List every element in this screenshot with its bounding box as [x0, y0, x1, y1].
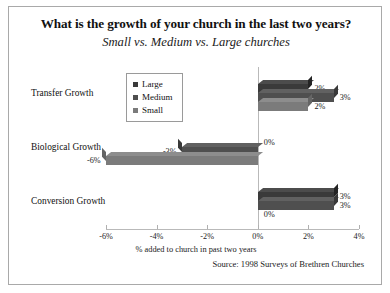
bar-side-facet [308, 93, 312, 106]
x-axis-line [106, 229, 359, 230]
legend-item-label: Medium [142, 93, 173, 102]
legend-item-label: Large [142, 80, 163, 89]
square-marker-icon [133, 108, 138, 113]
chart-legend[interactable]: LargeMediumSmall [126, 73, 183, 122]
x-axis-tick-label: -6% [86, 232, 126, 241]
x-axis-tick [106, 225, 107, 229]
bar-top-facet [258, 197, 339, 201]
bar-value-label: 3% [340, 93, 351, 102]
x-axis-tick-label: 4% [339, 232, 379, 241]
bar-value-label: 0% [264, 138, 275, 147]
bar-side-facet [308, 75, 312, 88]
x-axis-tick [157, 225, 158, 229]
legend-item-small[interactable]: Small [133, 104, 173, 117]
category-label: Biological Growth [31, 142, 101, 152]
legend-item-large[interactable]: Large [133, 78, 173, 91]
x-axis-tick-label: 0% [238, 232, 278, 241]
bar-top-facet [258, 89, 339, 93]
x-axis-tick [258, 225, 259, 229]
bar-top-facet [258, 80, 314, 84]
bar-small-0[interactable] [258, 102, 309, 111]
bar-value-label: 3% [340, 192, 351, 201]
x-axis-tick [308, 225, 309, 229]
x-axis-tick [207, 225, 208, 229]
bar-top-facet [258, 98, 314, 102]
bar-top-facet [258, 188, 339, 192]
x-axis-tick-label: 2% [288, 232, 328, 241]
category-label: Transfer Growth [31, 88, 93, 98]
bar-face [258, 102, 309, 111]
chart-figure: What is the growth of your church in the… [0, 0, 390, 293]
bar-face [258, 201, 334, 210]
source-note: Source: 1998 Surveys of Brethren Churche… [212, 259, 364, 269]
x-axis-label: % added to church in past two years [9, 245, 383, 254]
bar-value-label: 2% [314, 102, 325, 111]
legend-item-label: Small [142, 106, 163, 115]
bar-small-1[interactable] [106, 156, 258, 165]
x-axis-tick [359, 225, 360, 229]
chart-frame: What is the growth of your church in the… [8, 6, 382, 285]
x-axis-tick-label: -4% [137, 232, 177, 241]
bar-value-label: 3% [340, 201, 351, 210]
bar-top-facet [182, 143, 263, 147]
plot-area: -6%-4%-2%0%2%4%% added to church in past… [9, 7, 383, 286]
bar-face [106, 156, 258, 165]
bar-top-facet [106, 152, 263, 156]
x-axis-tick-label: -2% [187, 232, 227, 241]
bar-value-label: -6% [87, 156, 101, 165]
square-marker-icon [133, 95, 138, 100]
bar-value-label: 0% [264, 210, 275, 219]
bar-side-facet [334, 84, 338, 97]
square-marker-icon [133, 82, 138, 87]
bar-side-facet [102, 147, 106, 160]
bar-medium-2[interactable] [258, 201, 334, 210]
bar-side-facet [178, 138, 182, 151]
category-label: Conversion Growth [31, 196, 105, 206]
legend-item-medium[interactable]: Medium [133, 91, 173, 104]
